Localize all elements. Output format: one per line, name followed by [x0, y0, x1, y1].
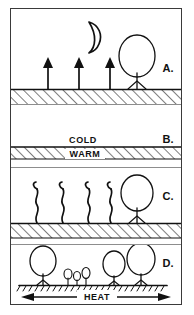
panel-c-canvas: C.	[11, 168, 181, 244]
cold-label: COLD	[69, 135, 97, 145]
wavy-updraft-arrow	[85, 182, 90, 223]
updraft-arrow	[105, 57, 115, 89]
panel-label-a: A.	[163, 62, 174, 74]
panel-a: A.	[11, 9, 181, 104]
warm-label: WARM	[70, 149, 101, 159]
heat-label: HEAT	[84, 292, 110, 302]
panel-a-canvas: A.	[11, 9, 181, 104]
tree-icon	[127, 245, 155, 285]
panel-b: COLD WARM B.	[11, 105, 181, 167]
panel-b-canvas: COLD WARM B.	[11, 105, 181, 167]
hatched-ground	[11, 90, 181, 105]
hatched-ground	[11, 224, 181, 239]
updraft-arrow	[43, 57, 53, 89]
panel-d-canvas: HEAT D.	[11, 245, 181, 306]
shrub-icon	[74, 272, 81, 286]
panel-d: HEAT D.	[11, 245, 181, 306]
updraft-arrow	[74, 57, 84, 89]
figure-frame: A. COLD WARM B.	[10, 8, 182, 305]
tree-icon	[30, 246, 56, 285]
panel-label-c: C.	[163, 190, 174, 202]
crescent-moon-icon	[89, 22, 101, 53]
figure-root: A. COLD WARM B.	[0, 0, 194, 315]
wavy-updraft-arrow	[59, 182, 64, 223]
panel-label-d: D.	[163, 257, 174, 269]
tree-icon	[121, 175, 153, 223]
tree-icon	[103, 251, 125, 285]
shrub-icon	[82, 268, 90, 286]
tree-icon	[119, 35, 155, 89]
panel-label-b: B.	[163, 133, 174, 145]
panel-c: C.	[11, 168, 181, 244]
shrub-icon	[64, 269, 72, 285]
wavy-updraft-arrow	[107, 182, 112, 223]
heat-double-arrow: HEAT	[21, 290, 171, 303]
wavy-updraft-arrow	[33, 182, 38, 223]
